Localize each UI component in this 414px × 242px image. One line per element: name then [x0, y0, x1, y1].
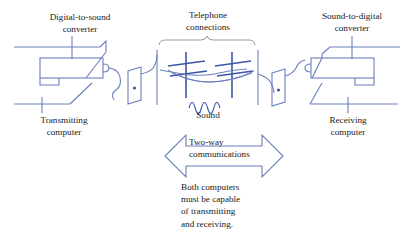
label-two-way-communications: Two-way communications	[189, 137, 275, 160]
diagram-canvas: Digital-to-sound converter Telephone con…	[0, 0, 414, 242]
label-telephone-connections: Telephone connections	[163, 10, 253, 33]
right-slant-top	[322, 47, 330, 58]
label-digital-to-sound-converter: Digital-to-sound converter	[28, 12, 132, 35]
left-case-slant-b	[70, 83, 92, 104]
label-receiving-computer: Receiving computer	[302, 115, 394, 138]
right-computer-group	[305, 36, 400, 113]
right-cable	[285, 60, 305, 76]
left-modem-base	[40, 78, 59, 85]
label-transmitting-computer: Transmitting computer	[16, 115, 112, 138]
left-cable	[109, 68, 121, 100]
right-case-slant-a	[312, 58, 322, 78]
right-wall-jack	[272, 69, 285, 106]
right-modem-base	[355, 78, 374, 85]
right-modem-connector	[305, 64, 311, 72]
label-sound: Sound	[178, 110, 238, 122]
left-slant-top	[100, 41, 106, 52]
left-wall-jack	[128, 67, 141, 104]
label-sound-to-digital-converter: Sound-to-digital converter	[300, 11, 404, 34]
label-note-both-computers: Both computers must be capable of transm…	[181, 181, 289, 230]
telephone-brace	[159, 36, 255, 45]
left-modem-connector	[103, 64, 109, 72]
left-jack-to-pole-cable	[141, 55, 157, 74]
right-case-slant-b	[310, 83, 322, 104]
left-computer-group	[14, 36, 109, 113]
